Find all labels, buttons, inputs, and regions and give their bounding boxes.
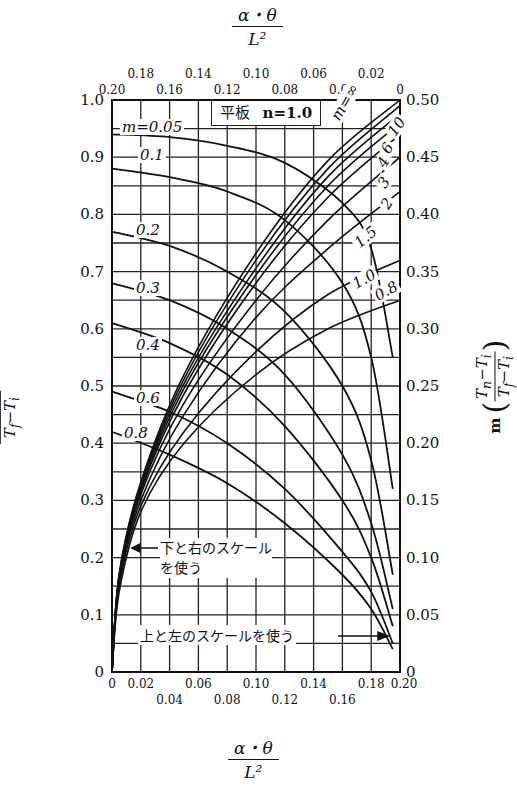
tick-label: 0.1 bbox=[80, 606, 104, 624]
tick-label: 0.05 bbox=[406, 606, 439, 624]
left-axis-title: Tn−Ti Tf−Ti bbox=[0, 391, 22, 444]
tick-label: 0.14 bbox=[300, 677, 327, 691]
tick-label: 0.4 bbox=[80, 434, 104, 452]
tick-label: 0.15 bbox=[406, 491, 439, 509]
right-axis-title: m ( Tn−Ti Tf−Ti ) bbox=[473, 340, 516, 434]
annotation-bottom-right-scale: 下と右のスケールを使う bbox=[160, 538, 272, 578]
curve-m0.05 bbox=[112, 134, 393, 357]
tick-label: 0.45 bbox=[406, 148, 439, 166]
tick-label: 0.8 bbox=[80, 205, 104, 223]
bottom-axis-title: α・θL² bbox=[228, 737, 279, 784]
annotation-top-left-scale: 上と左のスケールを使う bbox=[138, 625, 296, 645]
tick-label: 0.08 bbox=[214, 693, 241, 707]
curve-m0.4 bbox=[112, 323, 393, 626]
curve-label: 0.2 bbox=[134, 222, 162, 238]
tick-label: 0.16 bbox=[156, 83, 183, 97]
tick-label: 0.25 bbox=[406, 377, 439, 395]
curve-label: m=0.05 bbox=[120, 119, 184, 135]
tick-label: 0.20 bbox=[406, 434, 439, 452]
curve-label: 0.4 bbox=[134, 337, 162, 353]
tick-label: 0.5 bbox=[80, 377, 104, 395]
tick-label: 0.10 bbox=[406, 549, 439, 567]
tick-label: 0.16 bbox=[329, 693, 356, 707]
tick-label: 0.9 bbox=[80, 148, 104, 166]
tick-label: 0.40 bbox=[406, 205, 439, 223]
tick-label: 0.08 bbox=[271, 83, 298, 97]
tick-label: 0.20 bbox=[99, 83, 126, 97]
curve-label: 0.8 bbox=[122, 425, 150, 441]
tick-label: 0.12 bbox=[214, 83, 241, 97]
tick-label: 0.04 bbox=[156, 693, 183, 707]
tick-label: 0.30 bbox=[406, 320, 439, 338]
panel-title-box: 平板 n=1.0 bbox=[211, 101, 321, 126]
tick-label: 0.06 bbox=[185, 677, 212, 691]
tick-label: 0.35 bbox=[406, 263, 439, 281]
curve-label: 0.3 bbox=[134, 280, 162, 296]
tick-label: 0.18 bbox=[127, 67, 154, 81]
tick-label: 0.10 bbox=[243, 677, 270, 691]
tick-label: 0.2 bbox=[80, 549, 104, 567]
tick-label: 0.20 bbox=[391, 677, 418, 691]
tick-label: 0.6 bbox=[80, 320, 104, 338]
curve-m0.6 bbox=[112, 392, 393, 644]
tick-label: 0.06 bbox=[300, 67, 327, 81]
panel-label: 平板 bbox=[220, 104, 250, 122]
tick-label: 0.50 bbox=[406, 91, 439, 109]
tick-label: 0 bbox=[108, 677, 116, 691]
grid-lines bbox=[112, 100, 400, 672]
tick-label: 0.14 bbox=[185, 67, 212, 81]
tick-label: 0.02 bbox=[127, 677, 154, 691]
tick-label: 0.10 bbox=[243, 67, 270, 81]
tick-label: 0.3 bbox=[80, 491, 104, 509]
tick-label: 0.12 bbox=[271, 693, 298, 707]
tick-label: 0.18 bbox=[358, 677, 385, 691]
tick-label: 0 bbox=[94, 663, 104, 681]
curve-label: 0.6 bbox=[134, 390, 162, 406]
tick-label: 0.7 bbox=[80, 263, 104, 281]
n-label: n=1.0 bbox=[263, 104, 313, 122]
tick-label: 0.02 bbox=[358, 67, 385, 81]
top-axis-title: α・θL² bbox=[232, 4, 283, 51]
curve-label: 0.1 bbox=[138, 147, 166, 163]
tick-label: 0 bbox=[396, 83, 404, 97]
